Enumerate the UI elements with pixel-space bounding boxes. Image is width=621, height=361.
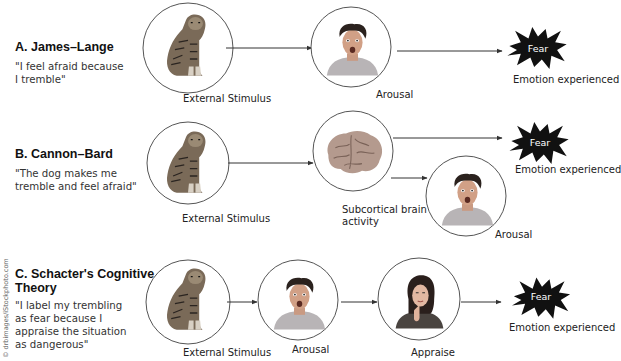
row-a-diagram: Fear — [143, 3, 567, 93]
row-b-brain-label-line-1: Subcortical brain — [342, 204, 427, 216]
row-c-arousal-label: Arousal — [292, 344, 329, 356]
fear-badge-a: Fear — [528, 43, 549, 54]
row-b-brain-label: Subcortical brain activity — [342, 204, 427, 228]
row-a-stimulus-label: External Stimulus — [183, 93, 271, 105]
row-a-emotion-label: Emotion experienced — [513, 74, 619, 86]
fear-badge-c: Fear — [531, 291, 552, 302]
row-c-stimulus-label: External Stimulus — [183, 347, 271, 359]
fear-badge-b: Fear — [530, 137, 551, 148]
row-c-appraise-label: Appraise — [411, 347, 455, 359]
row-b-arousal-label: Arousal — [495, 229, 532, 241]
brain-icon — [328, 131, 383, 173]
row-b-brain-label-line-2: activity — [342, 216, 427, 228]
row-b-stimulus-label: External Stimulus — [182, 213, 270, 225]
row-c-emotion-label: Emotion experienced — [509, 322, 615, 334]
row-a-arousal-label: Arousal — [376, 89, 413, 101]
row-b-emotion-label: Emotion experienced — [515, 164, 621, 176]
row-c-diagram: Fear — [146, 258, 570, 344]
